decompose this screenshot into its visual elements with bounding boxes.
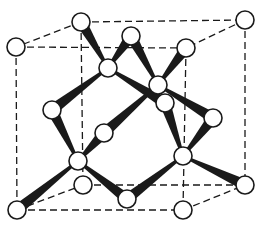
atom bbox=[174, 201, 192, 219]
atom bbox=[95, 124, 113, 142]
cell-edge bbox=[16, 47, 186, 48]
atom bbox=[69, 152, 87, 170]
atom bbox=[174, 147, 192, 165]
atom bbox=[74, 176, 92, 194]
cell-edge bbox=[183, 48, 186, 210]
cell-edge bbox=[81, 20, 245, 22]
atom bbox=[122, 27, 140, 45]
atom bbox=[236, 176, 254, 194]
atom bbox=[72, 13, 90, 31]
cell-edge bbox=[16, 22, 81, 47]
atom bbox=[99, 59, 117, 77]
cell-edge bbox=[16, 47, 17, 210]
atom bbox=[156, 94, 174, 112]
atom bbox=[204, 109, 222, 127]
atom bbox=[43, 101, 61, 119]
atom bbox=[236, 11, 254, 29]
atom bbox=[177, 39, 195, 57]
atom bbox=[118, 190, 136, 208]
atom bbox=[149, 76, 167, 94]
cell-edge bbox=[183, 185, 245, 210]
atom bbox=[7, 38, 25, 56]
atom bbox=[8, 201, 26, 219]
diamond-crystal-structure-diagram bbox=[0, 0, 261, 229]
